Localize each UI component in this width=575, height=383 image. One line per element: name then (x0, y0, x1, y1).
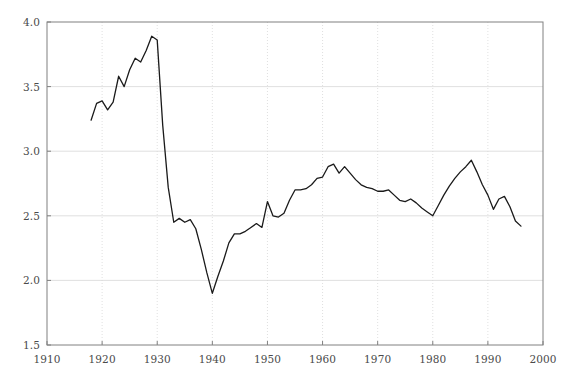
x-tick-label: 1950 (254, 353, 281, 365)
x-tick-label: 1930 (144, 353, 171, 365)
x-tick-label: 1990 (474, 353, 501, 365)
chart-canvas (0, 0, 575, 383)
y-tick-label: 3.5 (8, 81, 40, 93)
y-tick-label: 2.5 (8, 210, 40, 222)
x-tick-label: 1920 (89, 353, 116, 365)
x-tick-label: 1970 (364, 353, 391, 365)
x-tick-label: 1910 (33, 353, 60, 365)
y-tick-label: 3.0 (8, 145, 40, 157)
line-chart: 1.52.02.53.03.54.01910192019301940195019… (0, 0, 575, 383)
y-tick-label: 2.0 (8, 274, 40, 286)
x-tick-label: 1980 (419, 353, 446, 365)
x-tick-label: 1960 (309, 353, 336, 365)
y-tick-label: 1.5 (8, 339, 40, 351)
plot-frame (47, 22, 543, 345)
y-tick-label: 4.0 (8, 16, 40, 28)
x-tick-label: 1940 (199, 353, 226, 365)
data-line (91, 36, 521, 293)
x-tick-label: 2000 (529, 353, 556, 365)
